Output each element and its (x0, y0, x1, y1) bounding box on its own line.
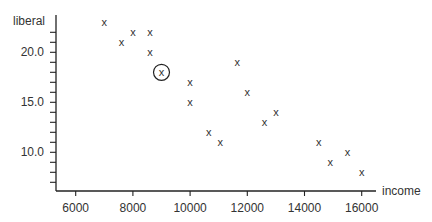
y-tick-label: 20.0 (21, 45, 45, 59)
x-marker-icon: x (102, 16, 108, 28)
x-marker-icon: x (245, 86, 251, 98)
x-marker-icon: x (119, 36, 125, 48)
x-marker-icon: x (217, 136, 223, 148)
x-tick-label: 14000 (288, 201, 322, 215)
x-marker-icon: x (235, 56, 241, 68)
x-ticks: 6000800010000120001400016000 (62, 191, 378, 215)
x-marker-icon: x (187, 96, 193, 108)
x-marker-icon: x (262, 116, 268, 128)
x-tick-label: 10000 (173, 201, 207, 215)
y-tick-label: 10.0 (21, 145, 45, 159)
x-tick-label: 8000 (120, 201, 147, 215)
y-ticks: 10.015.020.0 (21, 32, 56, 182)
x-marker-icon: x (327, 156, 333, 168)
x-marker-icon: x (316, 136, 322, 148)
x-marker-icon: x (159, 66, 165, 78)
x-marker-icon: x (206, 126, 212, 138)
x-marker-icon: x (187, 76, 193, 88)
data-points: xxxxxxxxxxxxxxxxxx (102, 16, 365, 178)
x-axis-label: income (382, 184, 421, 198)
x-tick-label: 16000 (345, 201, 379, 215)
x-marker-icon: x (147, 46, 153, 58)
x-marker-icon: x (130, 26, 136, 38)
scatter-plot: 10.015.020.0 600080001000012000140001600… (0, 0, 432, 222)
x-tick-label: 6000 (62, 201, 89, 215)
x-marker-icon: x (147, 26, 153, 38)
x-marker-icon: x (345, 146, 351, 158)
x-tick-label: 12000 (231, 201, 265, 215)
y-axis-label: liberal (13, 14, 45, 28)
y-tick-label: 15.0 (21, 95, 45, 109)
x-marker-icon: x (273, 106, 279, 118)
x-marker-icon: x (359, 166, 365, 178)
